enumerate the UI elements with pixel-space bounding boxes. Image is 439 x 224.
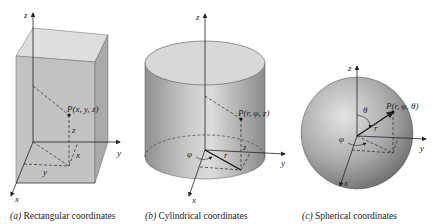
dim-theta-label: θ — [363, 105, 368, 115]
caption-b: (b) Cylindrical coordinates — [145, 211, 248, 222]
point-label: P(r, φ, z) — [237, 108, 269, 118]
dim-phi-label: φ — [187, 149, 192, 159]
x-axis-label: x — [343, 178, 348, 188]
x-axis-label: x — [14, 194, 19, 204]
dim-r-label: r — [224, 150, 228, 160]
dim-r-label: r — [374, 123, 378, 133]
y-axis-label: y — [116, 148, 121, 158]
dim-y-label: y — [42, 167, 47, 177]
point-label: P(r, φ, θ) — [385, 101, 418, 111]
z-axis-label: z — [347, 63, 352, 73]
dim-z-label: z — [242, 142, 247, 152]
dim-z-label: z — [71, 125, 76, 135]
figure-cylindrical: P(r, φ, z) z y x z r φ (b) Cylindrical c… — [145, 12, 285, 222]
figure-spherical: P(r, φ, θ) z y x θ r φ (c) Spherical coo… — [301, 63, 426, 222]
z-axis-label: z — [195, 12, 200, 22]
y-axis-label: y — [280, 158, 285, 168]
point-label: P(x, y, z) — [66, 104, 99, 114]
caption-a: (a) Rectangular coordinates — [10, 211, 116, 222]
box-front-face — [16, 56, 95, 183]
figure-rectangular: P(x, y, z) z y x z x y (a) Rectangular c… — [10, 10, 121, 222]
dim-phi-label: φ — [339, 134, 344, 144]
dim-x-label: x — [75, 150, 80, 160]
x-axis-label: x — [191, 195, 196, 205]
coordinate-systems-figure: P(x, y, z) z y x z x y (a) Rectangular c… — [0, 0, 439, 224]
caption-c: (c) Spherical coordinates — [302, 211, 397, 222]
z-axis-label: z — [23, 10, 28, 20]
y-axis-label: y — [419, 143, 424, 153]
